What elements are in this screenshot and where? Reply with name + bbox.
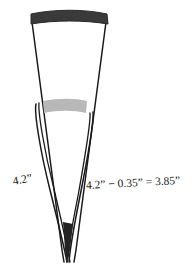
- tweezers-illustration: [0, 0, 193, 266]
- inner-left-arm: [36, 104, 67, 262]
- grip-band: [43, 99, 87, 113]
- tweezers-diagram: 4.2” 4.2” − 0.35” = 3.85”: [0, 0, 193, 266]
- top-cap: [31, 10, 108, 24]
